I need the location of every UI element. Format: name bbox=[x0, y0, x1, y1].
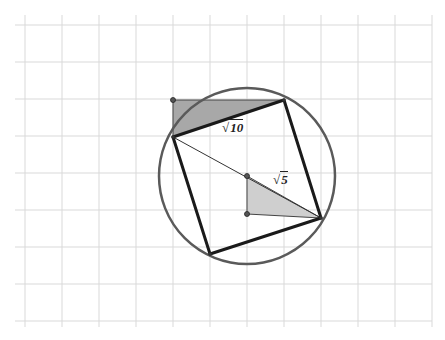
grid-lines bbox=[15, 15, 432, 327]
vertex-marker bbox=[171, 135, 175, 139]
geometry-diagram bbox=[0, 0, 445, 340]
point-marker bbox=[245, 174, 250, 179]
vertex-marker bbox=[208, 252, 212, 256]
vertex-marker bbox=[282, 98, 286, 102]
radius-length-label: √5 bbox=[273, 172, 288, 188]
radicand: 10 bbox=[229, 119, 243, 135]
radicand: 5 bbox=[280, 171, 288, 187]
point-marker bbox=[171, 98, 176, 103]
side-length-label: √10 bbox=[222, 120, 243, 136]
vertex-marker bbox=[319, 216, 323, 220]
point-marker bbox=[245, 212, 250, 217]
